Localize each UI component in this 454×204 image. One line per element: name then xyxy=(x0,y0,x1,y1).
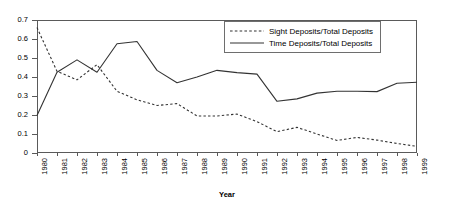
x-tick-label: 1995 xyxy=(341,158,349,175)
x-tick-label: 1986 xyxy=(161,158,169,175)
x-tick-label: 1997 xyxy=(381,158,389,175)
legend-item-sight-deposits: Sight Deposits/Total Deposits xyxy=(230,25,373,37)
solid-line-icon xyxy=(230,39,264,47)
x-tick-label: 1992 xyxy=(281,158,289,175)
x-tick-mark xyxy=(297,153,298,156)
x-tick-mark xyxy=(97,153,98,156)
y-tick-label: 0.6 xyxy=(18,35,28,43)
legend: Sight Deposits/Total Deposits Time Depos… xyxy=(224,21,381,53)
x-tick-label: 1981 xyxy=(61,158,69,175)
x-tick-label: 1991 xyxy=(261,158,269,175)
x-tick-mark xyxy=(57,153,58,156)
x-tick-label: 1980 xyxy=(41,158,49,175)
x-tick-mark xyxy=(177,153,178,156)
x-tick-label: 1987 xyxy=(181,158,189,175)
x-tick-mark xyxy=(137,153,138,156)
y-tick-label: 0.5 xyxy=(18,54,28,62)
x-axis: 1980198119821983198419851986198719881989… xyxy=(37,155,417,195)
legend-label-sight-deposits: Sight Deposits/Total Deposits xyxy=(269,27,373,36)
x-tick-mark xyxy=(397,153,398,156)
y-tick-label: 0 xyxy=(24,149,28,157)
x-tick-mark xyxy=(377,153,378,156)
dashed-line-icon xyxy=(230,27,264,35)
legend-label-time-deposits: Time Deposits/Total Deposits xyxy=(269,39,372,48)
x-tick-label: 1998 xyxy=(401,158,409,175)
x-tick-mark xyxy=(277,153,278,156)
x-axis-title: Year xyxy=(0,190,454,199)
x-tick-mark xyxy=(357,153,358,156)
x-tick-label: 1982 xyxy=(81,158,89,175)
x-tick-mark xyxy=(237,153,238,156)
y-axis: 00.10.20.30.40.50.60.7 xyxy=(0,0,34,204)
x-tick-label: 1985 xyxy=(141,158,149,175)
x-tick-mark xyxy=(77,153,78,156)
y-tick-label: 0.2 xyxy=(18,111,28,119)
x-tick-mark xyxy=(157,153,158,156)
x-tick-label: 1994 xyxy=(321,158,329,175)
x-tick-label: 1993 xyxy=(301,158,309,175)
y-tick-label: 0.1 xyxy=(18,130,28,138)
x-tick-mark xyxy=(217,153,218,156)
legend-item-time-deposits: Time Deposits/Total Deposits xyxy=(230,37,373,49)
x-tick-label: 1984 xyxy=(121,158,129,175)
x-tick-mark xyxy=(337,153,338,156)
x-tick-mark xyxy=(197,153,198,156)
x-tick-label: 1983 xyxy=(101,158,109,175)
x-tick-mark xyxy=(417,153,418,156)
x-tick-label: 1999 xyxy=(421,158,429,175)
y-tick-label: 0.4 xyxy=(18,73,28,81)
x-tick-mark xyxy=(37,153,38,156)
x-tick-label: 1989 xyxy=(221,158,229,175)
x-tick-label: 1988 xyxy=(201,158,209,175)
y-tick-label: 0.3 xyxy=(18,92,28,100)
x-tick-mark xyxy=(257,153,258,156)
x-tick-label: 1990 xyxy=(241,158,249,175)
y-tick-label: 0.7 xyxy=(18,16,28,24)
line-chart: 00.10.20.30.40.50.60.7 19801981198219831… xyxy=(0,0,454,204)
x-tick-label: 1996 xyxy=(361,158,369,175)
x-tick-mark xyxy=(117,153,118,156)
x-tick-mark xyxy=(317,153,318,156)
